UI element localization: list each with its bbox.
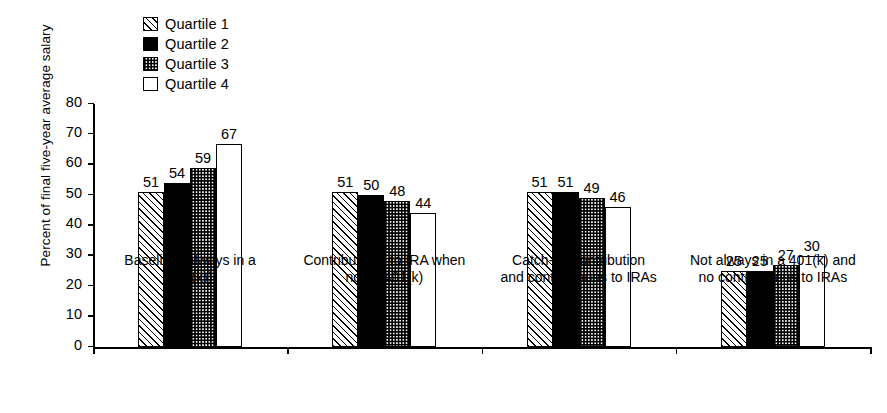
legend-label-quartile-4: Quartile 4 <box>165 77 229 91</box>
bar-value-label: 59 <box>195 151 211 166</box>
bar-value-label: 51 <box>558 175 574 190</box>
legend-item-quartile-4: Quartile 4 <box>143 76 229 92</box>
y-tick-label-0: 0 <box>54 337 82 353</box>
x-category-label-3: Catch-up contribution and contributions … <box>474 252 684 286</box>
y-tick-label-10: 10 <box>54 306 82 322</box>
y-tick-label-30: 30 <box>54 245 82 261</box>
x-tick-1 <box>287 347 289 354</box>
bar-chart-figure: Quartile 1 Quartile 2 Quartile 3 Quartil… <box>0 0 887 413</box>
y-tick-60: 60 <box>88 163 94 165</box>
legend-item-quartile-1: Quartile 1 <box>143 16 229 32</box>
bar-value-label: 44 <box>415 196 431 211</box>
bar-value-label: 54 <box>169 166 185 181</box>
bar-value-label: 51 <box>143 175 159 190</box>
bar-value-label: 50 <box>363 178 379 193</box>
x-tick-0 <box>93 347 95 354</box>
y-tick-label-50: 50 <box>54 185 82 201</box>
bar-value-label: 51 <box>532 175 548 190</box>
x-tick-2 <box>482 347 484 354</box>
y-axis-title: Percent of final five-year average salar… <box>38 16 53 276</box>
y-tick-label-80: 80 <box>54 94 82 110</box>
legend-item-quartile-2: Quartile 2 <box>143 36 229 52</box>
x-category-label-1: Baseline (always in a 401(k)) <box>85 252 295 286</box>
chart-legend: Quartile 1 Quartile 2 Quartile 3 Quartil… <box>143 16 229 92</box>
y-tick-label-20: 20 <box>54 276 82 292</box>
legend-label-quartile-3: Quartile 3 <box>165 57 229 71</box>
x-category-label-4: Not always in a 401(k) and no contributi… <box>668 252 878 286</box>
bar-value-label: 48 <box>389 184 405 199</box>
legend-swatch-icon-quartile-1 <box>143 17 158 31</box>
x-category-label-2: Contributions to IRA when not in 401(k) <box>279 252 489 286</box>
bar-group-1-quartile-4: 67 <box>216 144 242 348</box>
y-tick-10: 10 <box>88 315 94 317</box>
legend-label-quartile-1: Quartile 1 <box>165 17 229 31</box>
y-axis-line <box>93 104 95 347</box>
x-tick-3 <box>676 347 678 354</box>
legend-swatch-icon-quartile-2 <box>143 37 158 51</box>
y-tick-label-40: 40 <box>54 215 82 231</box>
plot-area: 01020304050607080 5154596751504844515149… <box>93 104 870 347</box>
y-tick-80: 80 <box>88 103 94 105</box>
bar-value-label: 51 <box>337 175 353 190</box>
x-tick-4 <box>870 347 872 354</box>
legend-item-quartile-3: Quartile 3 <box>143 56 229 72</box>
legend-swatch-icon-quartile-3 <box>143 57 158 71</box>
y-tick-label-60: 60 <box>54 154 82 170</box>
y-tick-50: 50 <box>88 194 94 196</box>
y-tick-70: 70 <box>88 133 94 135</box>
legend-swatch-icon-quartile-4 <box>143 77 158 91</box>
y-tick-label-70: 70 <box>54 124 82 140</box>
y-tick-40: 40 <box>88 224 94 226</box>
legend-label-quartile-2: Quartile 2 <box>165 37 229 51</box>
bar-value-label: 49 <box>584 181 600 196</box>
bar-value-label: 67 <box>221 127 237 142</box>
bar-value-label: 46 <box>610 190 626 205</box>
